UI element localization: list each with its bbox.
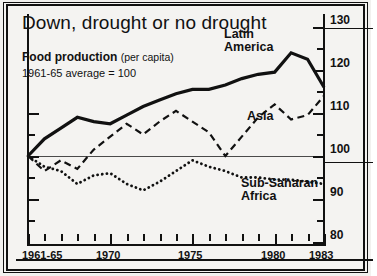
asia-line: [28, 96, 324, 171]
figure-inner-border: Down, drought or no drought Food product…: [6, 4, 365, 271]
latin-america-line: [28, 53, 324, 156]
sub-saharan-africa-line: [28, 156, 324, 190]
series-lines: [8, 6, 377, 276]
